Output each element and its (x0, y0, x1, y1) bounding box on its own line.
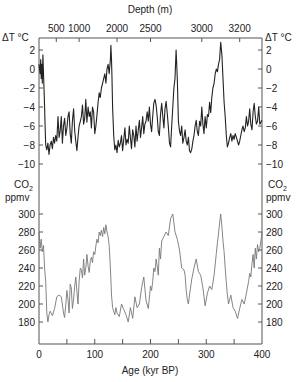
depth-tick-label: 500 (48, 23, 65, 34)
plot-frame (39, 38, 262, 344)
temp-tick-label-right: −10 (266, 159, 283, 170)
age-tick-label: 400 (254, 349, 271, 360)
co2-tick-label-right: 260 (266, 245, 283, 256)
co2-tick-label-right: 240 (266, 263, 283, 274)
co2-tick-label-right: 200 (266, 299, 283, 310)
age-tick-label: 100 (86, 349, 103, 360)
axis-ticks: 5001000200025003000320001002003004002200… (18, 23, 283, 360)
co2-tick-label-right: 180 (266, 317, 283, 328)
co2-tick-label-left: 240 (18, 263, 35, 274)
co2-tick-label-left: 200 (18, 299, 35, 310)
co2-tick-label-right: 220 (266, 281, 283, 292)
temperature-line (39, 42, 262, 154)
temp-unit-right: ΔT °C (265, 32, 292, 43)
temp-tick-label-left: −6 (24, 121, 36, 132)
temp-tick-label-left: −10 (18, 159, 35, 170)
co2-tick-label-left: 180 (18, 317, 35, 328)
co2-tick-label-left: 260 (18, 245, 35, 256)
co2-label-right: CO2 ppmv (266, 179, 290, 203)
svg-text:CO2: CO2 (268, 179, 287, 192)
depth-axis-title: Depth (m) (128, 4, 172, 15)
svg-text:CO2: CO2 (14, 179, 33, 192)
depth-tick-label: 1000 (68, 23, 91, 34)
depth-tick-label: 3200 (229, 23, 252, 34)
depth-tick-label: 2500 (139, 23, 162, 34)
age-axis-title: Age (kyr BP) (122, 365, 179, 376)
temp-tick-label-right: −6 (266, 121, 278, 132)
depth-tick-label: 2000 (106, 23, 129, 34)
temp-tick-label-left: 0 (29, 64, 35, 75)
age-tick-label: 200 (142, 349, 159, 360)
co2-tick-label-left: 220 (18, 281, 35, 292)
temp-unit-left: ΔT °C (2, 32, 29, 43)
temp-tick-label-right: −4 (266, 102, 278, 113)
age-tick-label: 0 (36, 349, 42, 360)
age-tick-label: 300 (198, 349, 215, 360)
co2-label-left: CO2 ppmv (5, 179, 33, 203)
temp-tick-label-left: −8 (24, 140, 36, 151)
temp-tick-label-right: 0 (266, 64, 272, 75)
co2-line (39, 214, 262, 322)
temp-tick-label-left: −2 (24, 83, 36, 94)
co2-tick-label-left: 280 (18, 227, 35, 238)
data-series (39, 42, 262, 322)
temp-tick-label-left: −4 (24, 102, 36, 113)
co2-tick-label-right: 280 (266, 227, 283, 238)
svg-text:ppmv: ppmv (5, 192, 29, 203)
svg-text:ppmv: ppmv (266, 192, 290, 203)
co2-tick-label-right: 300 (266, 209, 283, 220)
temp-tick-label-right: −8 (266, 140, 278, 151)
temp-tick-label-right: −2 (266, 83, 278, 94)
temp-tick-label-right: 2 (266, 45, 272, 56)
ice-core-chart: Depth (m) Age (kyr BP) ΔT °C ΔT °C CO2 p… (0, 0, 301, 382)
co2-tick-label-left: 300 (18, 209, 35, 220)
temp-tick-label-left: 2 (29, 45, 35, 56)
depth-tick-label: 3000 (191, 23, 214, 34)
